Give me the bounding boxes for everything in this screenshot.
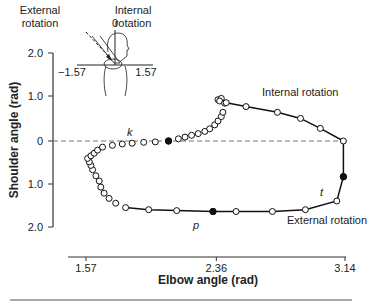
data-point — [152, 139, 158, 145]
y-axis-label: Shoulder angle (rad) — [7, 82, 21, 199]
key-point — [210, 208, 216, 214]
y-tick-label: 1.0 — [28, 178, 43, 190]
inset-zero-label: 0 — [112, 17, 118, 29]
data-point — [101, 190, 107, 196]
data-point — [119, 141, 125, 147]
data-point — [106, 195, 112, 201]
inset-internal-label-2: rotation — [115, 17, 152, 29]
data-point — [233, 209, 239, 215]
inset-external-label-2: rotation — [22, 17, 59, 29]
data-point — [223, 100, 229, 106]
data-point — [317, 125, 323, 131]
key-point — [165, 138, 171, 144]
x-tick-label: 3.14 — [334, 262, 355, 274]
inset-left-label: −1.57 — [58, 66, 86, 78]
data-point — [100, 144, 106, 150]
point-k-label: k — [127, 126, 133, 138]
inset-internal-label-1: Internal — [115, 4, 152, 16]
data-point — [113, 200, 119, 206]
data-point — [269, 209, 275, 215]
data-point — [175, 136, 181, 142]
data-point — [146, 207, 152, 213]
inset-right-label: 1.57 — [135, 66, 156, 78]
data-point — [302, 207, 308, 213]
internal-rotation-label: Internal rotation — [262, 86, 338, 98]
data-point — [182, 134, 188, 140]
point-t-label: t — [320, 186, 324, 198]
y-tick-label: 0 — [37, 135, 43, 147]
x-axis: 1.572.363.14 Elbow angle (rad) — [68, 257, 356, 287]
data-point — [123, 205, 129, 211]
trajectory-series — [85, 95, 347, 214]
x-tick-label: 1.57 — [75, 262, 96, 274]
x-axis-label: Elbow angle (rad) — [158, 273, 258, 287]
key-point — [340, 174, 346, 180]
data-point — [220, 109, 226, 115]
data-point — [174, 208, 180, 214]
data-point — [189, 132, 195, 138]
y-tick-label: 2.0 — [28, 221, 43, 233]
data-point — [98, 184, 104, 190]
data-point — [141, 139, 147, 145]
data-point — [298, 115, 304, 121]
y-tick-label: 1.0 — [28, 90, 43, 102]
inset-external-label-1: External — [20, 4, 60, 16]
data-point — [334, 198, 340, 204]
point-p-label: p — [192, 219, 199, 231]
data-point — [243, 104, 249, 110]
data-point — [274, 109, 280, 115]
chart: External rotation Internal rotation 0 −1… — [0, 0, 374, 304]
data-point — [93, 173, 99, 179]
data-point — [109, 142, 115, 148]
data-point — [340, 138, 346, 144]
y-tick-label: 2.0 — [28, 47, 43, 59]
data-point — [195, 131, 201, 137]
external-rotation-label: External rotation — [287, 214, 367, 226]
y-axis: 2.01.001.02.0 Shoulder angle (rad) — [7, 47, 53, 233]
data-point — [129, 140, 135, 146]
